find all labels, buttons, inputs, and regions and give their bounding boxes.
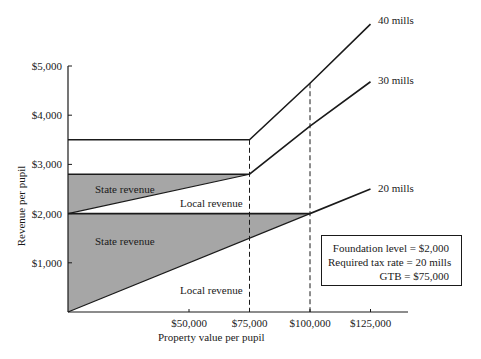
x-tick-label: $75,000 [232, 317, 268, 329]
legend-line-foundation: Foundation level = $2,000 [328, 241, 449, 255]
series-line-40-mills [68, 24, 371, 140]
series-line-30-mills [68, 82, 371, 174]
region-label-local-upper: Local revenue [180, 197, 243, 209]
dashed-guides [250, 83, 311, 312]
chart-canvas: $1,000$2,000$3,000$4,000$5,000$50,000$75… [0, 0, 481, 359]
region-label-local-lower: Local revenue [180, 284, 243, 296]
y-tick-label: $4,000 [32, 109, 63, 121]
x-tick-label: $100,000 [289, 317, 331, 329]
legend-box: Foundation level = $2,000 Required tax r… [321, 235, 462, 286]
x-tick-label: $50,000 [171, 317, 207, 329]
region-label-state-lower: State revenue [95, 235, 155, 247]
legend-line-gtb: GTB = $75,000 [328, 269, 449, 283]
y-tick-label: $1,000 [32, 257, 63, 269]
series-label-20-mills: 20 mills [378, 182, 414, 194]
y-tick-label: $2,000 [32, 208, 63, 220]
series-label-40-mills: 40 mills [378, 14, 414, 26]
legend-line-tax-rate: Required tax rate = 20 mills [328, 255, 449, 269]
y-tick-label: $5,000 [32, 60, 63, 72]
y-axis-label: Revenue per pupil [15, 166, 27, 247]
x-axis-label: Property value per pupil [158, 331, 265, 343]
series-label-30-mills: 30 mills [378, 74, 414, 86]
region-label-state-upper: State revenue [95, 183, 155, 195]
x-tick-label: $125,000 [350, 317, 392, 329]
y-tick-label: $3,000 [32, 158, 63, 170]
